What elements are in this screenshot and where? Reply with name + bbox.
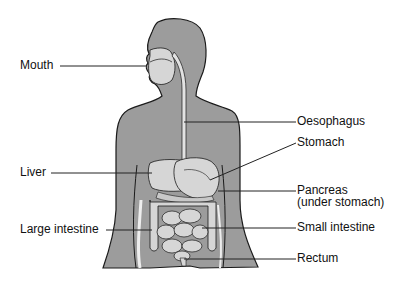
label-pancreas-note: (under stomach) bbox=[297, 196, 384, 209]
label-large-intestine: Large intestine bbox=[20, 223, 99, 236]
label-oesophagus: Oesophagus bbox=[297, 115, 365, 128]
label-rectum: Rectum bbox=[297, 252, 338, 265]
label-liver: Liver bbox=[20, 166, 46, 179]
label-stomach: Stomach bbox=[297, 136, 344, 149]
mouth-cavity bbox=[149, 48, 175, 85]
label-mouth: Mouth bbox=[20, 59, 53, 72]
digestive-system-diagram: Mouth Oesophagus Stomach Liver Pancreas … bbox=[0, 0, 411, 284]
label-small-intestine: Small intestine bbox=[297, 221, 375, 234]
body-illustration bbox=[0, 0, 411, 284]
